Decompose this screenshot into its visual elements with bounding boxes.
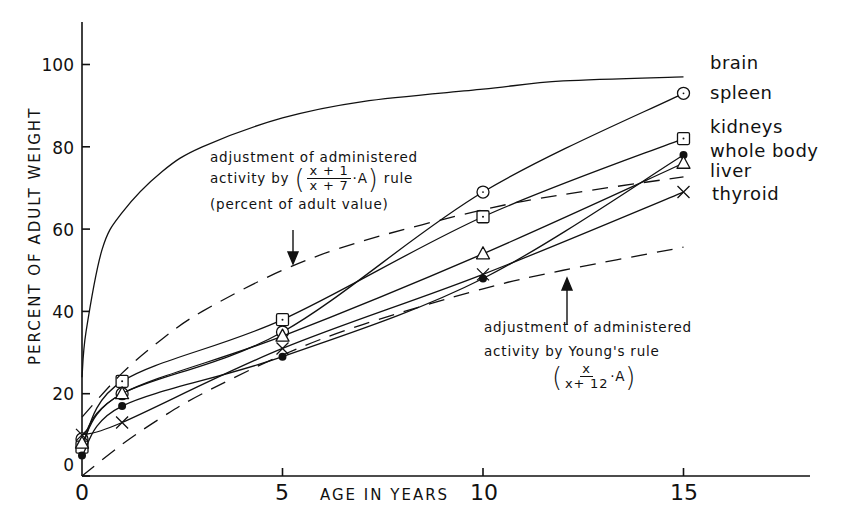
annotation-lower-line2: activity by Young's rule	[484, 342, 692, 360]
x-axis-title: AGE IN YEARS	[320, 486, 449, 504]
legend-label-liver: liver	[710, 160, 752, 181]
series-spleen	[76, 87, 690, 445]
y-tick-label-20: 20	[34, 384, 74, 404]
young-fraction: xx+ 12	[565, 362, 608, 391]
x-tick-label-15: 15	[670, 480, 698, 505]
legend-label-whole-body: whole body	[710, 140, 818, 161]
formula-fraction: x + 1x + 7	[307, 164, 350, 193]
annotation-upper-line2: activity by (x + 1x + 7·A) rule	[210, 164, 418, 193]
x-marker-icon	[678, 186, 690, 198]
y-tick-label-100: 100	[34, 55, 74, 75]
legend-label-kidneys: kidneys	[710, 116, 783, 137]
y-tick-label-0: 0	[34, 455, 74, 475]
legend-label-thyroid: thyroid	[712, 183, 779, 204]
series-layer	[76, 77, 691, 476]
x-tick-label-5: 5	[275, 480, 289, 505]
annotation-upper: adjustment of administered activity by (…	[210, 148, 418, 213]
triangle-marker-icon	[477, 247, 490, 259]
x-marker-icon	[116, 417, 128, 429]
annotation-lower-line1: adjustment of administered	[484, 318, 692, 336]
y-tick-label-80: 80	[34, 138, 74, 158]
series-thyroid	[76, 186, 690, 441]
x-tick-label-10: 10	[470, 480, 498, 505]
x-tick-label-0: 0	[75, 480, 89, 505]
chart-plot	[0, 0, 850, 524]
y-tick-label-40: 40	[34, 302, 74, 322]
annotation-lower: adjustment of administered activity by Y…	[484, 318, 692, 391]
filled-circle-marker-icon	[118, 402, 126, 410]
axes	[82, 22, 810, 476]
annotation-lower-formula: (xx+ 12·A)	[552, 362, 692, 391]
y-tick-label-60: 60	[34, 220, 74, 240]
x-ticks	[283, 468, 684, 476]
filled-circle-marker-icon	[78, 451, 86, 459]
legend-label-brain: brain	[710, 52, 759, 73]
annotation-upper-line3: (percent of adult value)	[210, 195, 418, 213]
legend-label-spleen: spleen	[710, 82, 772, 103]
y-ticks	[82, 65, 90, 477]
